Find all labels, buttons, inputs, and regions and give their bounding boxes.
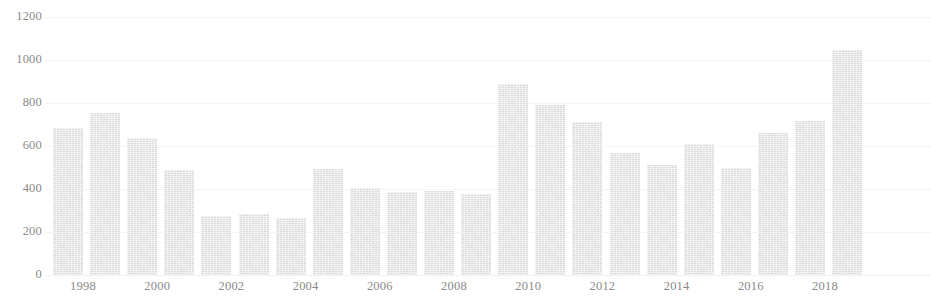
y-axis-tick-label: 400: [0, 181, 42, 196]
x-axis-tick-label: 2018: [795, 279, 855, 294]
y-axis-tick-label: 600: [0, 138, 42, 153]
bar: [350, 188, 380, 275]
x-axis-tick-label: 2006: [350, 279, 410, 294]
x-axis-baseline: [45, 275, 931, 276]
bar: [498, 84, 528, 275]
bar: [721, 168, 751, 276]
y-axis-tick-label: 800: [0, 95, 42, 110]
x-axis-tick-label: 2004: [276, 279, 336, 294]
bar: [758, 133, 788, 275]
x-axis-tick-label: 2000: [127, 279, 187, 294]
x-axis-tick-label: 2012: [572, 279, 632, 294]
bar: [461, 194, 491, 275]
bar: [164, 170, 194, 275]
x-axis-tick-label: 2016: [721, 279, 781, 294]
y-axis-tick-label: 200: [0, 224, 42, 239]
x-axis-tick-label: 1998: [53, 279, 113, 294]
bar: [239, 214, 269, 275]
bar: [647, 165, 677, 275]
bar: [424, 191, 454, 275]
y-axis-tick-label: 0: [0, 267, 42, 282]
plot-area: [45, 0, 931, 275]
bar: [201, 216, 231, 275]
x-axis-tick-label: 2010: [498, 279, 558, 294]
bar: [610, 153, 640, 275]
bar: [832, 50, 862, 275]
x-axis-tick-label: 2002: [201, 279, 261, 294]
bar: [313, 169, 343, 275]
y-axis-tick-label: 1000: [0, 52, 42, 67]
y-axis-tick-label: 1200: [0, 9, 42, 24]
bar: [90, 113, 120, 275]
bar: [53, 128, 83, 275]
x-axis-tick-label: 2014: [647, 279, 707, 294]
bar: [572, 122, 602, 275]
bar: [127, 138, 157, 275]
bar: [684, 144, 714, 275]
bar-chart: 020040060080010001200 199820002002200420…: [0, 0, 931, 299]
bar: [276, 218, 306, 275]
x-axis-tick-label: 2008: [424, 279, 484, 294]
bars-layer: [45, 0, 931, 275]
bar: [795, 121, 825, 275]
bar: [387, 192, 417, 275]
bar: [535, 105, 565, 275]
